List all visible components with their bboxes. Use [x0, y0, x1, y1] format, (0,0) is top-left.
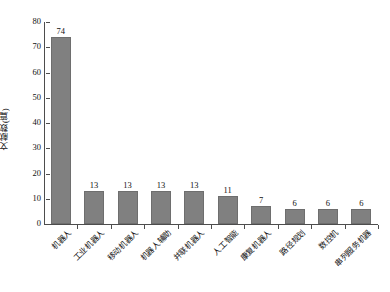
y-axis-tick-label: 60 [11, 67, 41, 78]
x-axis-tick-mark [144, 225, 145, 229]
y-axis-tick: 20 [2, 174, 50, 175]
x-axis-category-label: 康复机器人 [239, 228, 274, 263]
bar-chart: 文献数(篇) 01020304050607080 741313131311766… [0, 0, 390, 292]
x-axis-tick-mark [345, 225, 346, 229]
y-axis-tick-label: 80 [11, 16, 41, 27]
y-axis-tick: 50 [2, 98, 50, 99]
x-axis-category-text: 人工智能 [211, 228, 241, 258]
x-axis-category-label: 人工智能 [211, 228, 241, 258]
bar-value-label: 6 [326, 198, 330, 209]
y-axis-tick: 80 [2, 22, 50, 23]
x-axis-tick-mark [178, 225, 179, 229]
y-axis-tick-mark [46, 174, 50, 175]
y-axis-tick-mark [46, 123, 50, 124]
y-axis-tick: 0 [2, 224, 50, 225]
x-axis-category-text: 路径规划 [278, 228, 308, 258]
y-axis-tick: 40 [2, 123, 50, 124]
y-axis-tick-mark [46, 47, 50, 48]
y-axis-tick-label: 40 [11, 117, 41, 128]
x-axis-category-label: 并联机器人 [172, 228, 207, 263]
bar: 74 [51, 37, 71, 224]
y-axis-tick-mark [46, 224, 50, 225]
y-axis-tick-label: 20 [11, 168, 41, 179]
bar-value-label: 13 [157, 180, 166, 191]
x-axis-tick-mark [77, 225, 78, 229]
x-axis-category-text: 并联机器人 [172, 228, 207, 263]
y-axis-tick-mark [46, 22, 50, 23]
x-axis-category-text: 工业机器人 [72, 228, 107, 263]
y-axis-tick: 60 [2, 73, 50, 74]
bar: 13 [118, 191, 138, 224]
x-axis-category-text: 数控机 [317, 228, 341, 252]
y-axis-tick: 70 [2, 47, 50, 48]
y-axis-tick-mark [46, 199, 50, 200]
y-axis-tick-label: 10 [11, 193, 41, 204]
bar: 13 [151, 191, 171, 224]
y-axis-tick-mark [46, 73, 50, 74]
y-axis-tick-label: 0 [11, 218, 41, 229]
bar-value-label: 6 [359, 198, 363, 209]
x-axis-category-text: 机器人辅助 [139, 228, 174, 263]
y-axis-tick-label: 30 [11, 142, 41, 153]
x-axis-category-label: 移动机器人 [105, 228, 140, 263]
bar: 6 [318, 209, 338, 224]
x-axis-category-label: 路径规划 [278, 228, 308, 258]
x-axis-tick-mark [311, 225, 312, 229]
x-axis-tick-mark [278, 225, 279, 229]
x-axis-category-label: 机器人辅助 [139, 228, 174, 263]
bar: 11 [218, 196, 238, 224]
x-axis-category-label: 数控机 [317, 228, 341, 252]
x-axis-tick-mark [111, 225, 112, 229]
bar-value-label: 7 [259, 195, 263, 206]
bar: 13 [184, 191, 204, 224]
x-axis-category-label: 工业机器人 [72, 228, 107, 263]
bar-value-label: 13 [190, 180, 199, 191]
bar-value-label: 13 [123, 180, 132, 191]
x-axis-category-text: 机器人 [50, 228, 74, 252]
bar: 6 [351, 209, 371, 224]
y-axis-tick-label: 50 [11, 92, 41, 103]
y-axis-tick: 30 [2, 148, 50, 149]
x-axis-category-text: 康复机器人 [239, 228, 274, 263]
bar: 13 [84, 191, 104, 224]
bar: 6 [285, 209, 305, 224]
bar-value-label: 11 [224, 185, 232, 196]
x-axis-category-label: 机器人 [50, 228, 74, 252]
bar: 7 [251, 206, 271, 224]
plot-area: 01020304050607080 7413131313117666 [44, 22, 378, 225]
x-axis-tick-mark [244, 225, 245, 229]
y-axis-tick-label: 70 [11, 41, 41, 52]
x-axis-tick-mark [211, 225, 212, 229]
y-axis-tick-mark [46, 148, 50, 149]
x-axis-category-text: 移动机器人 [105, 228, 140, 263]
y-axis-tick: 10 [2, 199, 50, 200]
bar-value-label: 6 [292, 198, 296, 209]
x-axis-tick-mark [378, 225, 379, 229]
bar-value-label: 74 [56, 26, 65, 37]
bar-value-label: 13 [90, 180, 99, 191]
y-axis-tick-mark [46, 98, 50, 99]
